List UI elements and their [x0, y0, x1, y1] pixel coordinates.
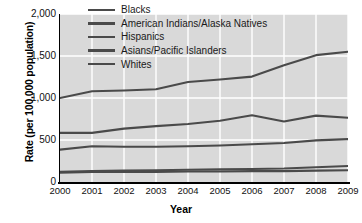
legend-item-label: Asians/Pacific Islanders	[121, 45, 227, 56]
legend-line-swatch	[88, 9, 115, 12]
x-tick-label: 2002	[107, 185, 141, 196]
legend-item-label: Hispanics	[121, 31, 164, 42]
y-tick-label: 1,500	[16, 51, 56, 61]
x-tick-label: 2001	[75, 185, 109, 196]
legend-item: Blacks	[88, 3, 267, 17]
legend-item-label: Whites	[121, 59, 152, 70]
y-tick-label: 1,000	[16, 93, 56, 103]
legend-item: Asians/Pacific Islanders	[88, 44, 267, 58]
x-axis-line	[58, 182, 350, 184]
x-axis-tick-labels: 2000200120022003200420052006200720082009	[60, 185, 348, 199]
chart-legend: BlacksAmerican Indians/Alaska NativesHis…	[88, 3, 267, 71]
legend-item-label: Blacks	[121, 4, 150, 15]
legend-line-swatch	[88, 49, 115, 52]
x-tick-label: 2003	[139, 185, 173, 196]
legend-item: Whites	[88, 57, 267, 71]
legend-item: Hispanics	[88, 30, 267, 44]
x-tick-label: 2009	[331, 185, 362, 196]
x-tick-label: 2008	[299, 185, 333, 196]
legend-line-swatch	[88, 36, 115, 39]
y-tick-label: 2,000	[16, 9, 56, 19]
x-tick-label: 2000	[43, 185, 77, 196]
y-axis-line	[59, 14, 60, 182]
series-line-american-indians-alaska-natives	[60, 115, 348, 133]
x-tick-label: 2004	[171, 185, 205, 196]
legend-line-swatch	[88, 22, 115, 25]
legend-item-label: American Indians/Alaska Natives	[121, 18, 267, 29]
series-line-hispanics	[60, 139, 348, 150]
legend-item: American Indians/Alaska Natives	[88, 17, 267, 31]
x-tick-label: 2006	[235, 185, 269, 196]
x-tick-label: 2005	[203, 185, 237, 196]
x-axis-title: Year	[0, 203, 362, 215]
y-tick-label: 500	[16, 135, 56, 145]
x-tick-label: 2007	[267, 185, 301, 196]
chart-figure: Rate (per 100,000 population) 05001,0001…	[0, 0, 362, 223]
legend-line-swatch	[88, 63, 115, 66]
